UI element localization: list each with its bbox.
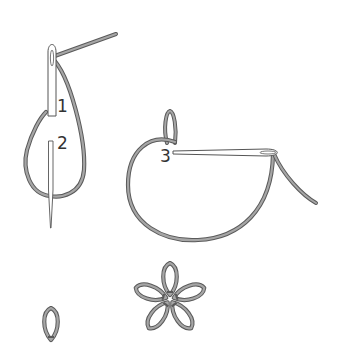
step-1-2-illustration [26,34,116,228]
diagram-canvas [0,0,340,363]
step-label-3: 3 [160,148,171,165]
embroidery-diagram: 1 2 3 [0,0,340,363]
needle-3 [173,149,277,156]
needle-1 [48,45,56,117]
step-3-illustration [128,111,316,240]
single-petal [44,308,58,340]
step-label-2: 2 [57,135,68,152]
five-petal-flower [134,263,207,332]
needle-2 [49,141,54,228]
thread-tail-3 [274,154,316,203]
step-label-1: 1 [57,98,68,115]
